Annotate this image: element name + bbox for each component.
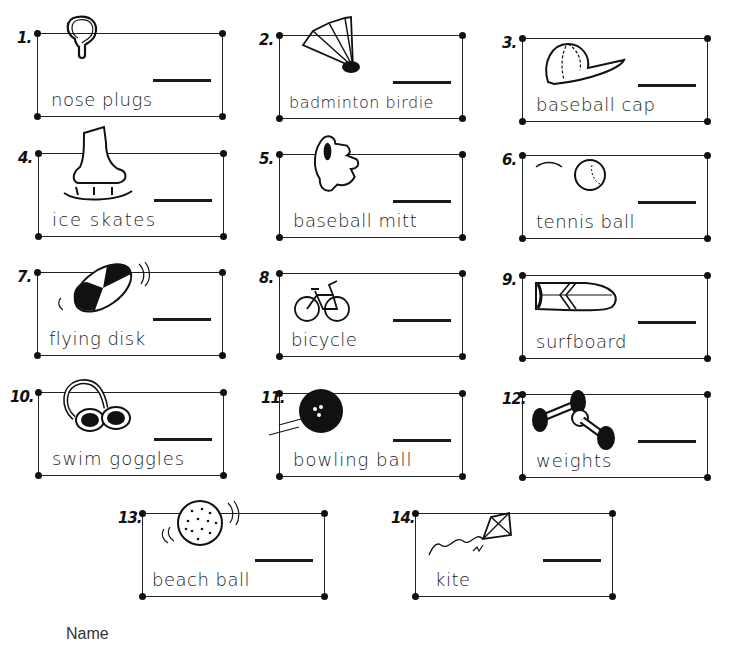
item-number: 12. <box>502 390 526 408</box>
answer-blank[interactable] <box>393 200 451 203</box>
item-number: 3. <box>502 34 516 52</box>
item-number: 6. <box>502 151 516 169</box>
item-label: baseball mitt <box>293 210 417 231</box>
name-label: Name <box>66 625 109 643</box>
answer-blank[interactable] <box>154 438 212 441</box>
baseball-cap-icon <box>532 32 642 100</box>
item-number: 8. <box>259 269 273 287</box>
item-number: 2. <box>259 31 273 49</box>
item-label: bicycle <box>291 329 357 350</box>
flying-disk-icon <box>47 258 157 326</box>
item-label: kite <box>435 569 471 590</box>
answer-blank[interactable] <box>393 439 451 442</box>
answer-blank[interactable] <box>543 559 601 562</box>
ice-skate-icon <box>48 123 158 203</box>
item-label: baseball cap <box>536 94 655 115</box>
item-card-1: 1. nose plugs <box>37 33 223 117</box>
item-card-9: 9. surfboard <box>522 275 708 359</box>
item-label: weights <box>536 450 612 471</box>
item-label: ice skates <box>52 209 157 230</box>
item-number: 4. <box>18 149 32 167</box>
item-number: 10. <box>10 388 34 406</box>
swim-goggles-icon <box>48 378 158 446</box>
nose-plugs-icon <box>47 15 157 83</box>
beach-ball-icon <box>152 499 262 567</box>
item-card-13: 13. beach ball <box>142 513 325 597</box>
birdie-icon <box>289 15 399 83</box>
answer-blank[interactable] <box>154 199 212 202</box>
item-label: bowling ball <box>293 449 413 470</box>
answer-blank[interactable] <box>153 318 211 321</box>
answer-blank[interactable] <box>393 81 451 84</box>
item-card-5: 5. baseball mitt <box>279 154 463 238</box>
answer-blank[interactable] <box>638 84 696 87</box>
baseball-mitt-icon <box>289 134 399 202</box>
item-label: swim goggles <box>52 448 185 469</box>
item-label: badminton birdie <box>289 93 434 112</box>
item-label: nose plugs <box>51 89 153 110</box>
item-card-4: 4. ice skates <box>38 153 224 237</box>
item-number: 9. <box>502 271 516 289</box>
item-card-11: 11. bowling ball <box>279 393 463 477</box>
weights-icon <box>526 388 636 456</box>
answer-blank[interactable] <box>638 201 696 204</box>
answer-blank[interactable] <box>255 559 313 562</box>
item-label: flying disk <box>49 328 146 349</box>
item-number: 14. <box>391 509 415 527</box>
answer-blank[interactable] <box>638 321 696 324</box>
answer-blank[interactable] <box>638 440 696 443</box>
tennis-ball-icon <box>526 151 636 219</box>
answer-blank[interactable] <box>393 319 451 322</box>
item-label: surfboard <box>536 331 627 352</box>
item-card-14: 14. kite <box>415 513 613 597</box>
item-number: 5. <box>259 150 273 168</box>
item-number: 1. <box>17 29 31 47</box>
item-card-2: 2. badminton birdie <box>279 35 463 119</box>
item-label: tennis ball <box>536 211 635 232</box>
item-card-10: 10. swim goggles <box>38 392 224 476</box>
item-number: 13. <box>118 509 142 527</box>
item-number: 7. <box>17 268 31 286</box>
item-label: beach ball <box>152 569 250 590</box>
item-card-8: 8. bicycle <box>279 273 463 357</box>
item-card-7: 7. flying disk <box>37 272 223 356</box>
answer-blank[interactable] <box>153 79 211 82</box>
item-card-6: 6. tennis ball <box>522 155 708 239</box>
item-card-3: 3. baseball cap <box>522 38 708 122</box>
item-card-12: 12. weights <box>522 394 708 478</box>
